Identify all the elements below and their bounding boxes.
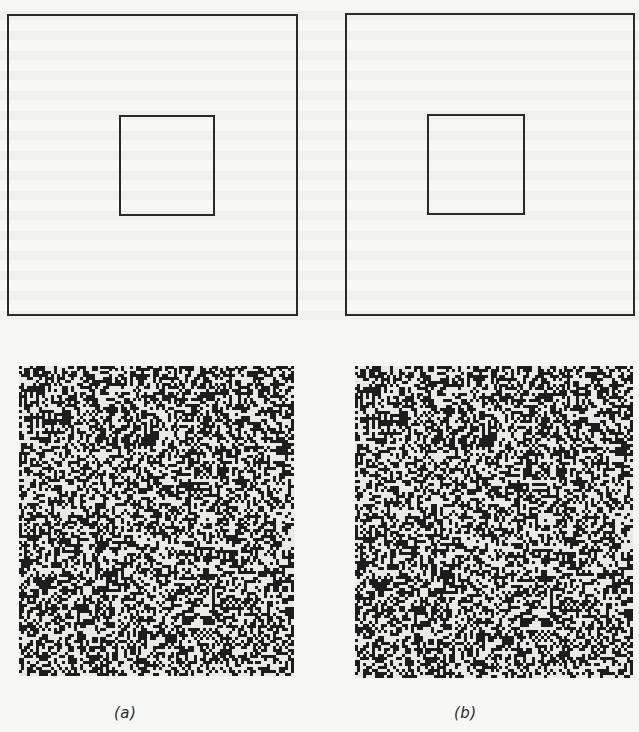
panel-a-dot-pattern	[19, 366, 294, 676]
panel-b-random-dot-stereogram	[355, 366, 633, 678]
panel-a-caption: (a)	[114, 704, 136, 722]
figure-page: (a) (b)	[0, 0, 639, 732]
panel-a-inner-square	[119, 115, 215, 216]
panel-b-caption: (b)	[454, 704, 477, 722]
panel-b-dot-pattern	[355, 366, 633, 678]
panel-b-inner-square	[427, 114, 525, 215]
panel-a-random-dot-stereogram	[19, 366, 294, 676]
